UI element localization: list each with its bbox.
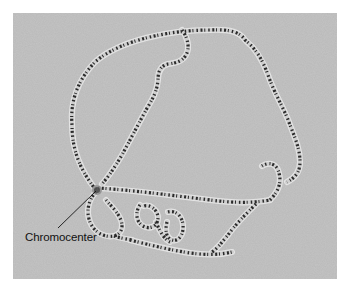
chromocenter-label: Chromocenter bbox=[25, 231, 97, 243]
